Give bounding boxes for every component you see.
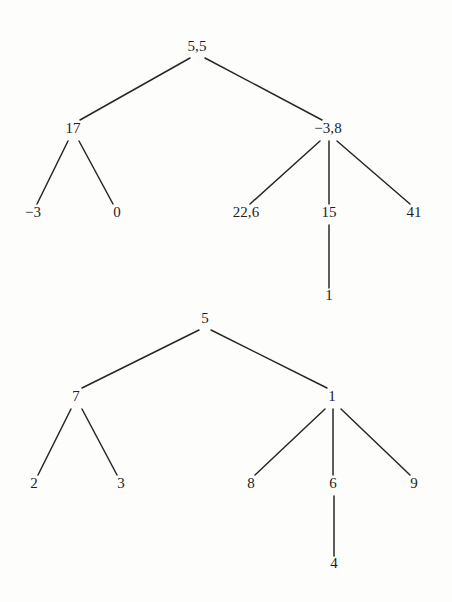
- tree-edge: [80, 58, 190, 120]
- tree-node-label: 3: [117, 475, 125, 491]
- tree-edge: [82, 409, 117, 475]
- tree-node-label: −3,8: [314, 120, 342, 136]
- tree-node-label: 17: [65, 120, 81, 136]
- tree-node-label: 2: [30, 475, 38, 491]
- tree-node-label: 22,6: [233, 204, 260, 220]
- tree-node-label: 0: [113, 204, 121, 220]
- tree-edge: [38, 409, 71, 475]
- lower-tree-nodes: 571238694: [30, 310, 418, 571]
- tree-node-label: −3: [25, 204, 41, 220]
- tree-figure: 5,517−3,8−3022,615411 571238694: [0, 0, 452, 602]
- tree-edge: [79, 141, 113, 204]
- tree-node-label: 6: [329, 475, 337, 491]
- tree-node-label: 7: [72, 388, 80, 404]
- tree-node-label: 9: [410, 475, 418, 491]
- tree-node-label: 41: [406, 204, 421, 220]
- tree-edge: [37, 141, 68, 204]
- tree-node-label: 5: [201, 310, 209, 326]
- upper-tree-edges: [37, 58, 410, 288]
- tree-edge: [255, 409, 325, 475]
- tree-edge: [82, 330, 199, 388]
- tree-edge: [205, 58, 322, 120]
- tree-edge: [337, 141, 410, 204]
- tree-node-label: 4: [330, 555, 338, 571]
- tree-edge: [211, 330, 327, 388]
- tree-node-label: 8: [247, 475, 255, 491]
- lower-tree-edges: [38, 330, 410, 556]
- upper-tree-nodes: 5,517−3,8−3022,615411: [25, 38, 422, 303]
- tree-edge: [250, 141, 320, 204]
- tree-node-label: 5,5: [187, 38, 206, 54]
- tree-node-label: 1: [328, 388, 336, 404]
- tree-diagram-canvas: 5,517−3,8−3022,615411 571238694: [0, 0, 452, 602]
- tree-edge: [341, 409, 410, 475]
- tree-node-label: 1: [325, 287, 333, 303]
- tree-node-label: 15: [321, 204, 336, 220]
